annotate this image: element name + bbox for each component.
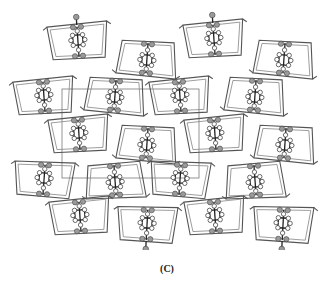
molecule: [112, 204, 182, 250]
crystal-packing-diagram: [0, 0, 334, 250]
molecule: [178, 10, 249, 59]
molecule: [248, 204, 318, 250]
molecule: [180, 114, 250, 155]
molecule: [249, 39, 319, 80]
molecule: [42, 12, 113, 61]
molecule: [44, 114, 114, 155]
molecule: [145, 76, 215, 117]
molecule: [80, 76, 150, 117]
molecule: [9, 76, 79, 117]
figure-caption: (C): [0, 263, 334, 274]
molecule: [112, 39, 182, 80]
molecule: [9, 159, 79, 200]
molecule: [80, 161, 150, 202]
molecule: [145, 159, 215, 200]
molecule: [180, 196, 250, 237]
molecule: [112, 124, 182, 165]
molecule: [220, 161, 290, 202]
molecule: [45, 196, 115, 237]
molecule: [220, 76, 290, 117]
molecule: [250, 124, 320, 165]
molecule-layer: [9, 10, 320, 250]
